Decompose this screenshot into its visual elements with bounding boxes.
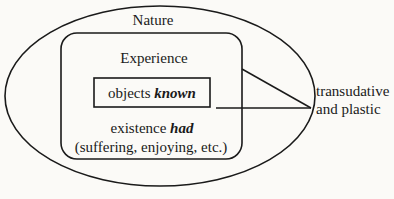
- objects-text: objects: [108, 85, 151, 101]
- had-text: had: [170, 120, 193, 136]
- experience-label: Experience: [120, 51, 187, 66]
- pointer-line-upper: [242, 69, 311, 108]
- existence-had-label: existence had: [111, 121, 194, 136]
- known-text: known: [154, 85, 196, 101]
- annotation-line-2: and plastic: [316, 102, 381, 117]
- suffering-enjoying-label: (suffering, enjoying, etc.): [75, 140, 228, 155]
- diagram-shapes: [0, 0, 394, 199]
- nature-label: Nature: [133, 13, 174, 28]
- objects-known-label: objects known: [108, 86, 196, 101]
- existence-text: existence: [111, 120, 167, 136]
- annotation-line-1: transudative: [316, 84, 389, 99]
